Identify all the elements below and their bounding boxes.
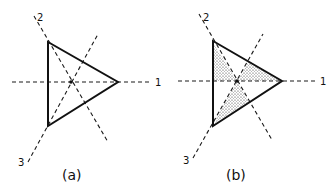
axis-2-label: 2: [203, 12, 209, 23]
panel-b-caption: (b): [226, 167, 246, 183]
axis-3-label: 3: [18, 157, 24, 168]
shaded-region-bottom: [213, 81, 249, 124]
shaded-region-right: [237, 61, 280, 81]
triangle-outline: [48, 42, 118, 126]
axis-3-line: [28, 34, 98, 162]
axis-1-label: 1: [155, 77, 161, 88]
axis-3-label: 3: [183, 155, 189, 166]
panel-b: 1 2 3 (b): [178, 12, 326, 183]
panel-a-caption: (a): [62, 167, 82, 183]
panel-a: 1 2 3 (a): [12, 12, 161, 183]
axis-2-line: [34, 16, 108, 142]
symmetry-figure: 1 2 3 (a) 1 2 3 (b): [0, 0, 332, 186]
axis-1-label: 1: [320, 76, 326, 87]
axis-2-label: 2: [37, 12, 43, 23]
center-point: [235, 79, 239, 83]
axis-3-line: [193, 34, 263, 158]
center-point: [69, 80, 73, 84]
